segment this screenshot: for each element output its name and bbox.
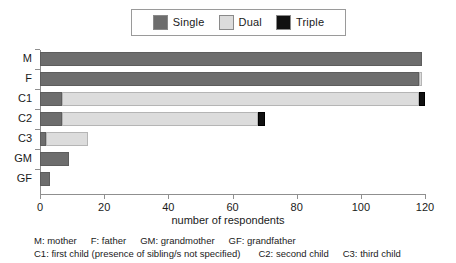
y-tick-C3	[35, 129, 40, 130]
x-tick-label-100: 100	[352, 201, 370, 213]
y-axis-label-C3: C3	[18, 131, 32, 146]
bar-segment-F-single[interactable]	[40, 72, 419, 86]
y-tick-C1	[35, 89, 40, 90]
legend-item-triple: Triple	[276, 15, 324, 30]
caption-abbr-f: F: father	[91, 234, 126, 247]
legend-swatch-triple-icon	[276, 15, 291, 30]
chart-caption: M: motherF: fatherGM: grandmotherGF: gra…	[34, 234, 454, 260]
bar-segment-C2-triple[interactable]	[258, 112, 264, 126]
caption-abbr-c1: C1: first child (presence of sibling/s n…	[34, 247, 240, 260]
x-tick-label-60: 60	[226, 201, 238, 213]
chart-legend: Single Dual Triple	[131, 9, 346, 36]
stacked-bar-F[interactable]	[40, 72, 422, 86]
x-tick-100	[361, 194, 362, 199]
y-tick-GM	[35, 149, 40, 150]
x-tick-label-0: 0	[37, 201, 43, 213]
y-axis-label-M: M	[23, 51, 32, 66]
y-tick-M	[35, 49, 40, 50]
y-axis-label-GF: GF	[17, 171, 32, 186]
x-tick-40	[168, 194, 169, 199]
caption-line-1: M: motherF: fatherGM: grandmotherGF: gra…	[34, 234, 454, 247]
x-tick-label-80: 80	[291, 201, 303, 213]
x-tick-0	[40, 194, 41, 199]
caption-abbr-m: M: mother	[34, 234, 77, 247]
legend-item-single: Single	[153, 15, 205, 30]
bar-segment-C2-dual[interactable]	[62, 112, 258, 126]
bar-chart-plot-area: 020406080100120 MFC1C2C3GMGF	[0, 44, 456, 204]
stacked-bar-M[interactable]	[40, 52, 422, 66]
bar-segment-C1-single[interactable]	[40, 92, 62, 106]
stacked-bar-C3[interactable]	[40, 132, 88, 146]
legend-swatch-dual-icon	[219, 15, 234, 30]
legend-swatch-single-icon	[153, 15, 168, 30]
y-axis-label-F: F	[25, 71, 32, 86]
y-axis-label-GM: GM	[14, 151, 32, 166]
bar-segment-GF-single[interactable]	[40, 172, 50, 186]
x-tick-60	[233, 194, 234, 199]
bar-segment-C3-dual[interactable]	[46, 132, 88, 146]
bar-segment-C1-triple[interactable]	[419, 92, 425, 106]
x-tick-20	[104, 194, 105, 199]
x-axis-title: number of respondents	[0, 214, 456, 227]
caption-abbr-gm: GM: grandmother	[140, 234, 214, 247]
y-axis-label-C1: C1	[18, 91, 32, 106]
stacked-bar-C2[interactable]	[40, 112, 265, 126]
y-tick-GF	[35, 169, 40, 170]
bar-segment-C2-single[interactable]	[40, 112, 62, 126]
legend-label-single: Single	[173, 17, 205, 28]
caption-abbr-c2: C2: second child	[258, 247, 328, 260]
stacked-bar-C1[interactable]	[40, 92, 425, 106]
x-tick-label-20: 20	[98, 201, 110, 213]
y-axis-label-C2: C2	[18, 111, 32, 126]
stacked-bar-GF[interactable]	[40, 172, 50, 186]
caption-abbr-c3: C3: third child	[343, 247, 401, 260]
legend-label-dual: Dual	[239, 17, 262, 28]
y-tick-F	[35, 69, 40, 70]
bar-segment-C1-dual[interactable]	[62, 92, 418, 106]
stacked-bar-GM[interactable]	[40, 152, 69, 166]
x-tick-80	[297, 194, 298, 199]
caption-line-2: C1: first child (presence of sibling/s n…	[34, 247, 454, 260]
legend-label-triple: Triple	[296, 17, 324, 28]
bar-segment-M-single[interactable]	[40, 52, 422, 66]
y-tick-C2	[35, 109, 40, 110]
caption-abbr-gf: GF: grandfather	[229, 234, 296, 247]
bar-segment-F-dual[interactable]	[419, 72, 422, 86]
x-tick-label-40: 40	[162, 201, 174, 213]
legend-item-dual: Dual	[219, 15, 262, 30]
x-tick-label-120: 120	[416, 201, 434, 213]
x-tick-120	[425, 194, 426, 199]
bar-segment-GM-single[interactable]	[40, 152, 69, 166]
